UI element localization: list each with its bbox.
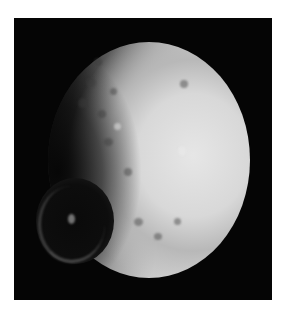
small-crater <box>134 218 143 226</box>
small-crater <box>154 233 162 240</box>
small-crater <box>174 218 181 225</box>
bright-spot <box>178 146 186 156</box>
small-crater <box>78 98 87 108</box>
small-crater <box>94 58 102 66</box>
small-crater <box>104 138 113 146</box>
moon-photograph <box>14 18 272 300</box>
small-crater <box>124 168 132 176</box>
bright-spot <box>114 123 121 130</box>
small-crater <box>180 80 188 88</box>
small-crater <box>86 78 96 87</box>
large-crater-rim <box>38 186 105 263</box>
small-crater <box>98 110 106 118</box>
crater-central-peak <box>68 214 75 224</box>
small-crater <box>110 88 117 95</box>
